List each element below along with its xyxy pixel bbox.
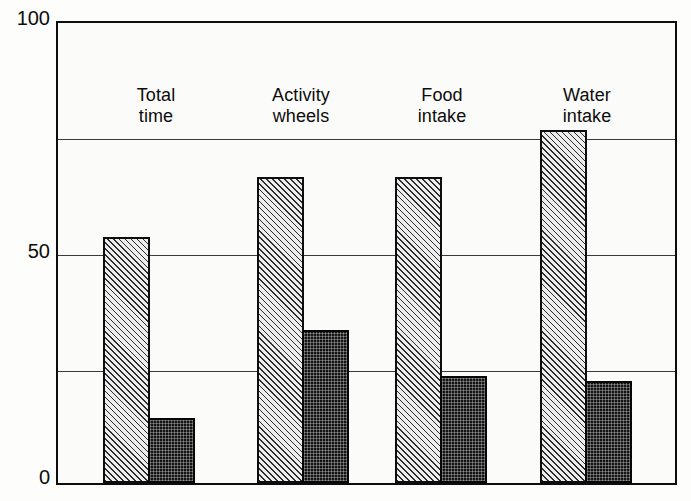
- y-axis-tick-50: 50: [8, 240, 50, 263]
- y-axis-tick-100: 100: [8, 7, 50, 30]
- plot-area: Total timeActivity wheelsFood intakeWate…: [56, 21, 677, 485]
- y-axis-tick-0: 0: [8, 466, 50, 489]
- bar-series-b-3: [585, 381, 632, 483]
- bar-series-a-0: [103, 237, 150, 483]
- bar-series-a-2: [395, 177, 442, 483]
- category-label-2: Food intake: [382, 85, 502, 127]
- bar-series-b-2: [440, 376, 487, 483]
- category-label-0: Total time: [96, 85, 216, 127]
- bar-series-b-0: [148, 418, 195, 483]
- bar-series-b-1: [302, 330, 349, 483]
- bar-chart: 100 50 0 Total timeActivity wheelsFood i…: [0, 0, 691, 501]
- category-label-3: Water intake: [524, 85, 650, 127]
- category-label-1: Activity wheels: [236, 85, 366, 127]
- bar-series-a-1: [257, 177, 304, 483]
- bar-series-a-3: [540, 130, 587, 483]
